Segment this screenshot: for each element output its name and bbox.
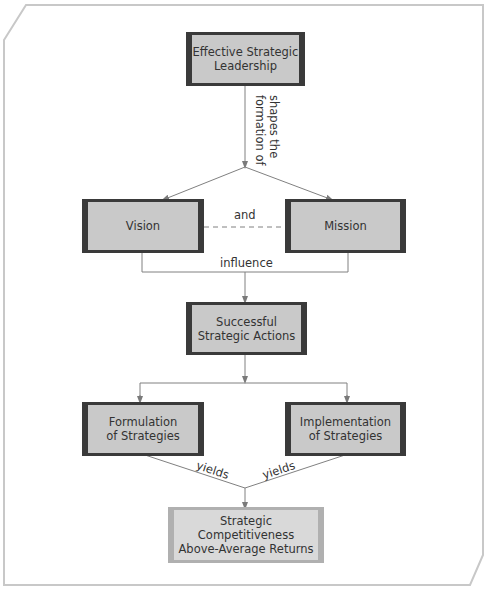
node-label: Competitiveness (178, 528, 313, 542)
diagram-canvas (0, 0, 487, 592)
node-successful-strategic-actions: Successful Strategic Actions (186, 302, 307, 355)
node-label: Formulation (106, 415, 179, 429)
node-label: Strategic (178, 514, 313, 528)
node-implementation-of-strategies: Implementation of Strategies (285, 402, 406, 456)
node-strategic-competitiveness: Strategic Competitiveness Above-Average … (168, 507, 324, 563)
edge-label-influence: influence (220, 256, 273, 270)
node-label: of Strategies (106, 429, 179, 443)
node-label: Implementation (300, 415, 391, 429)
node-label: Leadership (193, 59, 299, 73)
edge-label-and: and (234, 208, 256, 222)
edge-label-line: shapes the (267, 95, 281, 158)
node-effective-strategic-leadership: Effective Strategic Leadership (186, 32, 305, 86)
node-label: Successful (198, 315, 296, 329)
node-label: of Strategies (300, 429, 391, 443)
node-label: Mission (324, 219, 367, 233)
node-label: Above-Average Returns (178, 542, 313, 556)
edge-label-line: formation of (253, 95, 267, 166)
node-formulation-of-strategies: Formulation of Strategies (82, 402, 204, 456)
node-label: Strategic Actions (198, 329, 296, 343)
frame-border (4, 5, 483, 585)
node-mission: Mission (285, 199, 406, 253)
node-label: Vision (126, 219, 160, 233)
node-label: Effective Strategic (193, 45, 299, 59)
node-vision: Vision (82, 199, 204, 253)
edge-label-shapes: shapes the formation of (253, 95, 281, 166)
